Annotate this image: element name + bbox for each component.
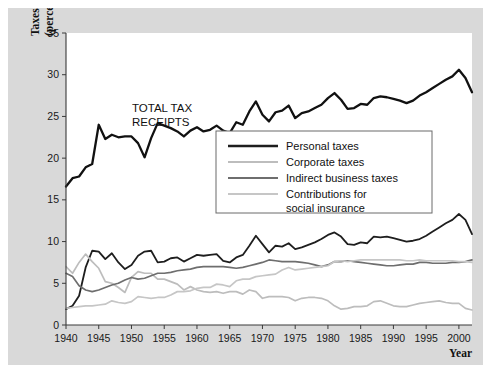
x-axis-tick-label: 1940 — [54, 332, 78, 344]
x-axis-tick-label: 1990 — [382, 332, 406, 344]
x-axis-tick-label: 1975 — [284, 332, 308, 344]
x-axis-tick-label: 1955 — [153, 332, 177, 344]
total-tax-receipts-annotation-line1: TOTAL TAX — [132, 102, 192, 114]
x-axis-tick-label: 1965 — [218, 332, 242, 344]
chart-legend: Personal taxesCorporate taxesIndirect bu… — [216, 131, 432, 214]
x-axis-tick-label: 1995 — [414, 332, 438, 344]
x-axis-tick-label: 1970 — [251, 332, 275, 344]
x-axis-tick-label: 1980 — [316, 332, 340, 344]
y-axis-title-line1: Taxes — [29, 8, 41, 36]
y-axis-tick-label: 15 — [47, 193, 59, 205]
y-axis-tick-label: 30 — [47, 68, 59, 80]
x-axis-title: Year — [449, 347, 472, 359]
x-axis-tick-label: 2000 — [447, 332, 471, 344]
y-axis-tick-label: 20 — [47, 152, 59, 164]
legend-label-0: Personal taxes — [286, 140, 359, 152]
y-axis-tick-label: 0 — [53, 319, 59, 331]
y-axis-tick-label: 10 — [47, 235, 59, 247]
x-axis-tick-label: 1985 — [349, 332, 373, 344]
legend-label-2: Indirect business taxes — [286, 172, 398, 184]
legend-label-3-line2: social insurance — [286, 202, 365, 214]
x-axis-tick-label: 1960 — [185, 332, 209, 344]
x-axis-tick-label: 1945 — [87, 332, 111, 344]
total-tax-receipts-annotation-line2: RECEIPTS — [132, 116, 190, 128]
legend-label-1: Corporate taxes — [286, 156, 365, 168]
legend-label-3: Contributions for — [286, 188, 367, 200]
chart-figure: 0510152025303519401945195019551960196519… — [8, 8, 483, 365]
y-axis-title-line2: (percent of GDP) — [43, 8, 56, 36]
x-axis-tick-label: 1950 — [120, 332, 144, 344]
y-axis-tick-label: 5 — [53, 277, 59, 289]
y-axis-tick-label: 25 — [47, 110, 59, 122]
tax-receipts-line-chart: 0510152025303519401945195019551960196519… — [8, 8, 483, 365]
